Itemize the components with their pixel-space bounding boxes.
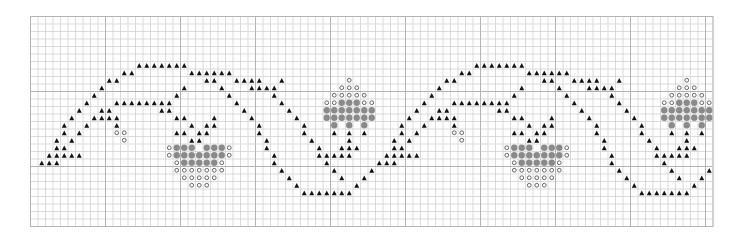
dot-stitch-icon <box>676 107 682 113</box>
dot-stitch-icon <box>706 115 712 121</box>
circle-stitch-icon <box>355 93 359 97</box>
circle-stitch-icon <box>220 168 224 172</box>
circle-stitch-icon <box>707 101 711 105</box>
circle-stitch-icon <box>197 183 201 187</box>
circle-stitch-icon <box>355 86 359 90</box>
circle-stitch-icon <box>190 168 194 172</box>
dot-stitch-icon <box>699 122 705 128</box>
dot-stitch-icon <box>181 145 187 151</box>
circle-stitch-icon <box>205 168 209 172</box>
circle-stitch-icon <box>197 168 201 172</box>
circle-stitch-icon <box>677 86 681 90</box>
circle-stitch-icon <box>220 161 224 165</box>
dot-stitch-icon <box>661 107 667 113</box>
dot-stitch-icon <box>354 107 360 113</box>
circle-stitch-icon <box>362 101 366 105</box>
dot-stitch-icon <box>219 145 225 151</box>
dot-stitch-icon <box>684 122 690 128</box>
circle-stitch-icon <box>332 93 336 97</box>
dot-stitch-icon <box>211 145 217 151</box>
dot-stitch-icon <box>526 145 532 151</box>
dot-stitch-icon <box>174 152 180 158</box>
dot-stitch-icon <box>339 107 345 113</box>
circle-stitch-icon <box>670 101 674 105</box>
dot-stitch-icon <box>676 115 682 121</box>
circle-stitch-icon <box>227 146 231 150</box>
circle-stitch-icon <box>122 131 126 135</box>
dot-stitch-icon <box>549 145 555 151</box>
circle-stitch-icon <box>565 146 569 150</box>
circle-stitch-icon <box>460 138 464 142</box>
circle-stitch-icon <box>565 153 569 157</box>
circle-stitch-icon <box>505 146 509 150</box>
circle-stitch-icon <box>700 93 704 97</box>
dot-stitch-icon <box>519 145 525 151</box>
dot-stitch-icon <box>189 152 195 158</box>
circle-stitch-icon <box>362 93 366 97</box>
dot-stitch-icon <box>534 152 540 158</box>
circle-stitch-icon <box>190 176 194 180</box>
circle-stitch-icon <box>332 101 336 105</box>
dot-stitch-icon <box>339 100 345 106</box>
dot-stitch-icon <box>196 152 202 158</box>
circle-stitch-icon <box>557 168 561 172</box>
dot-stitch-icon <box>556 145 562 151</box>
circle-stitch-icon <box>677 93 681 97</box>
dot-stitch-icon <box>331 115 337 121</box>
circle-stitch-icon <box>340 93 344 97</box>
dot-stitch-icon <box>511 145 517 151</box>
dot-stitch-icon <box>204 160 210 166</box>
circle-stitch-icon <box>167 153 171 157</box>
dot-stitch-icon <box>324 115 330 121</box>
dot-stitch-icon <box>556 152 562 158</box>
circle-stitch-icon <box>212 176 216 180</box>
circle-stitch-icon <box>505 153 509 157</box>
circle-stitch-icon <box>527 183 531 187</box>
dot-stitch-icon <box>196 160 202 166</box>
circle-stitch-icon <box>325 101 329 105</box>
circle-stitch-icon <box>347 78 351 82</box>
dot-stitch-icon <box>174 145 180 151</box>
circle-stitch-icon <box>700 101 704 105</box>
circle-stitch-icon <box>205 176 209 180</box>
dot-stitch-icon <box>549 152 555 158</box>
dot-stitch-icon <box>526 160 532 166</box>
circle-stitch-icon <box>197 176 201 180</box>
dot-stitch-icon <box>684 115 690 121</box>
circle-stitch-icon <box>685 86 689 90</box>
dot-stitch-icon <box>549 160 555 166</box>
dot-stitch-icon <box>541 152 547 158</box>
dot-stitch-icon <box>181 152 187 158</box>
dot-stitch-icon <box>354 100 360 106</box>
circle-stitch-icon <box>122 138 126 142</box>
circle-stitch-icon <box>182 168 186 172</box>
circle-stitch-icon <box>542 176 546 180</box>
circle-stitch-icon <box>542 168 546 172</box>
circle-stitch-icon <box>460 131 464 135</box>
dot-stitch-icon <box>361 122 367 128</box>
circle-stitch-icon <box>685 93 689 97</box>
circle-stitch-icon <box>175 168 179 172</box>
dot-stitch-icon <box>699 107 705 113</box>
circle-stitch-icon <box>347 86 351 90</box>
dot-stitch-icon <box>204 145 210 151</box>
circle-stitch-icon <box>167 146 171 150</box>
circle-stitch-icon <box>175 161 179 165</box>
grid-background <box>30 16 713 226</box>
dot-stitch-icon <box>541 160 547 166</box>
dot-stitch-icon <box>661 115 667 121</box>
dot-stitch-icon <box>324 107 330 113</box>
circle-stitch-icon <box>692 93 696 97</box>
dot-stitch-icon <box>691 115 697 121</box>
circle-stitch-icon <box>227 153 231 157</box>
dot-stitch-icon <box>211 152 217 158</box>
circle-stitch-icon <box>347 93 351 97</box>
circle-stitch-icon <box>182 176 186 180</box>
dot-stitch-icon <box>684 100 690 106</box>
dot-stitch-icon <box>706 107 712 113</box>
circle-stitch-icon <box>212 168 216 172</box>
circle-stitch-icon <box>520 176 524 180</box>
circle-stitch-icon <box>557 161 561 165</box>
dot-stitch-icon <box>346 122 352 128</box>
circle-stitch-icon <box>550 176 554 180</box>
